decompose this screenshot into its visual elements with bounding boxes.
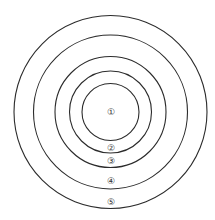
ring-label-2: ② — [104, 142, 118, 154]
ring-label-1: ① — [104, 106, 118, 118]
ring-label-4: ④ — [104, 175, 118, 187]
ring-label-3: ③ — [104, 155, 118, 167]
concentric-circle-diagram: ① ② ③ ④ ⑤ — [0, 0, 215, 220]
ring-label-5: ⑤ — [104, 196, 118, 208]
figure-caption — [0, 213, 215, 220]
